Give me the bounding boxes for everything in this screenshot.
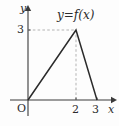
y-axis-label: y	[20, 3, 26, 14]
y-tick-label-3: 3	[17, 24, 24, 35]
origin-label: O	[17, 103, 26, 114]
function-curve	[28, 30, 97, 100]
function-graph-figure: y x O 2 3 3 y=f(x)	[0, 0, 119, 126]
function-equation-equals: =	[64, 8, 74, 22]
function-equation-fx: f(x)	[74, 8, 95, 22]
function-equation-label: y=f(x)	[57, 9, 94, 21]
x-tick-label-2: 2	[72, 104, 79, 115]
function-equation-y: y	[57, 8, 64, 22]
x-tick-label-3: 3	[92, 104, 99, 115]
x-axis-label: x	[108, 104, 114, 115]
